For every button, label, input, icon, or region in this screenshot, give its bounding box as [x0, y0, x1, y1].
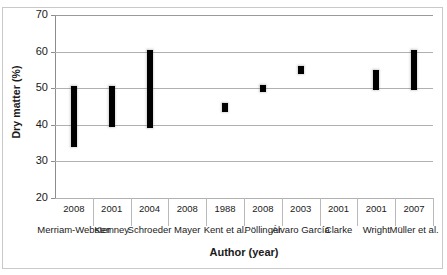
- gridline-60: [55, 52, 433, 53]
- gridline-70: [55, 15, 433, 16]
- y-tick-mark-40: [51, 125, 55, 126]
- y-tick-label-20: 20: [22, 192, 48, 203]
- category-year-label: 2001: [366, 204, 387, 214]
- category-year-label: 2008: [252, 204, 273, 214]
- category-author-label: Álvaro García: [272, 224, 330, 235]
- y-tick-label-30: 30: [22, 155, 48, 166]
- category-year-label: 2007: [404, 204, 425, 214]
- y-axis-title: Dry matter (%): [10, 42, 22, 162]
- category-separator: [282, 198, 283, 226]
- range-bar: [298, 66, 304, 73]
- category-separator: [395, 198, 396, 226]
- category-author-label: Müller et al.: [390, 224, 439, 235]
- range-bar: [71, 86, 77, 146]
- category-separator: [168, 198, 169, 226]
- x-axis-title: Author (year): [55, 246, 433, 258]
- x-axis-category-band: 2008Merriam-Webster2001Kemney2004Schroed…: [55, 198, 433, 243]
- y-tick-label-40: 40: [22, 119, 48, 130]
- category-year-label: 2008: [177, 204, 198, 214]
- range-bar: [222, 103, 228, 112]
- category-separator: [357, 198, 358, 226]
- category-author-label: Schroeder: [128, 224, 172, 235]
- range-bar: [373, 70, 379, 90]
- range-bar: [109, 86, 115, 126]
- plot-area: [55, 15, 433, 198]
- category-separator: [433, 198, 434, 226]
- category-year-label: 2003: [290, 204, 311, 214]
- y-tick-label-60: 60: [22, 46, 48, 57]
- y-tick-mark-70: [51, 15, 55, 16]
- category-year-label: 2001: [101, 204, 122, 214]
- category-year-label: 2004: [139, 204, 160, 214]
- category-author-label: Kemney: [94, 224, 129, 235]
- category-separator: [131, 198, 132, 226]
- y-tick-mark-50: [51, 88, 55, 89]
- category-author-label: Mayer: [174, 224, 200, 235]
- y-tick-label-70: 70: [22, 9, 48, 20]
- category-separator: [206, 198, 207, 226]
- category-separator: [244, 198, 245, 226]
- category-year-label: 2008: [63, 204, 84, 214]
- dry-matter-range-chart: Dry matter (%) 203040506070 2008Merriam-…: [0, 0, 447, 275]
- range-bar: [260, 85, 266, 92]
- title-remnant: [120, 0, 146, 4]
- range-bar: [411, 50, 417, 90]
- y-axis-line: [55, 15, 56, 198]
- category-separator: [320, 198, 321, 226]
- category-year-label: 2001: [328, 204, 349, 214]
- range-bar: [147, 50, 153, 129]
- category-author-label: Kent et al.: [204, 224, 247, 235]
- category-separator: [93, 198, 94, 226]
- y-tick-mark-60: [51, 52, 55, 53]
- category-author-label: Wright: [363, 224, 390, 235]
- y-tick-label-50: 50: [22, 82, 48, 93]
- gridline-30: [55, 161, 433, 162]
- category-year-label: 1988: [215, 204, 236, 214]
- y-tick-mark-30: [51, 161, 55, 162]
- category-author-label: Clarke: [325, 224, 352, 235]
